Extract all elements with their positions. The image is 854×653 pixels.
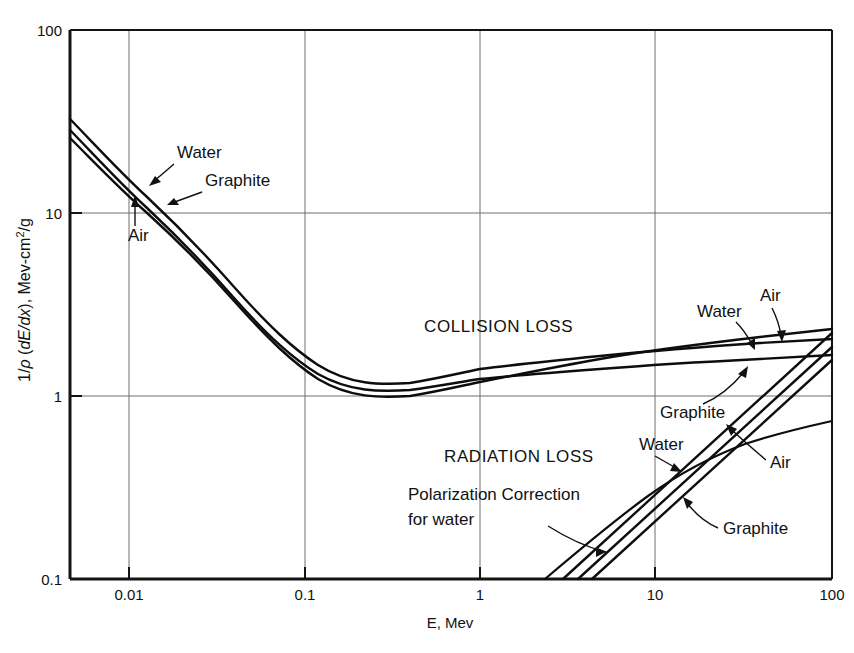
ytick-label-0.1: 0.1 (41, 571, 62, 588)
y-axis-label-paren-close: ), Mev-cm (16, 238, 33, 309)
radiation-air-label: Air (770, 453, 791, 472)
y-axis-label-dx: dx (16, 308, 33, 326)
y-axis-label: 1/ρ (dE/dx), Mev-cm2/g (14, 218, 33, 382)
ytick-label-1: 1 (54, 388, 62, 405)
polarization-correction-label-line1: Polarization Correction (408, 485, 580, 504)
xtick-label-1: 1 (476, 586, 484, 603)
svg-text:1/ρ (dE/dx), Mev-cm2/g: 1/ρ (dE/dx), Mev-cm2/g (14, 218, 33, 382)
xtick-label-0.01: 0.01 (114, 586, 143, 603)
collision-air-label: Air (760, 286, 781, 305)
xtick-label-0.1: 0.1 (295, 586, 316, 603)
y-axis-label-de: dE (16, 330, 33, 350)
collision-graphite-label: Graphite (660, 403, 725, 422)
ytick-label-10: 10 (45, 205, 62, 222)
left-air-label: Air (128, 226, 149, 245)
xtick-label-100: 100 (819, 586, 844, 603)
collision-loss-label: COLLISION LOSS (424, 317, 573, 336)
stopping-power-log-log-chart: 100 10 1 0.1 0.01 0.1 1 10 100 E, Mev 1/… (0, 0, 854, 653)
chart-figure: 100 10 1 0.1 0.01 0.1 1 10 100 E, Mev 1/… (0, 0, 854, 653)
y-axis-label-suffix: /g (16, 218, 33, 231)
y-axis-label-prefix: 1/ (16, 368, 33, 382)
ytick-label-100: 100 (37, 22, 62, 39)
x-axis-label: E, Mev (427, 614, 474, 631)
radiation-graphite-label: Graphite (723, 519, 788, 538)
polarization-correction-label-line2: for water (408, 510, 474, 529)
left-water-label: Water (177, 143, 222, 162)
left-graphite-label: Graphite (205, 171, 270, 190)
collision-water-label: Water (697, 302, 742, 321)
radiation-water-label: Water (639, 435, 684, 454)
xtick-label-10: 10 (647, 586, 664, 603)
y-axis-label-rho: ρ (16, 359, 33, 369)
radiation-loss-label: RADIATION LOSS (444, 447, 594, 466)
